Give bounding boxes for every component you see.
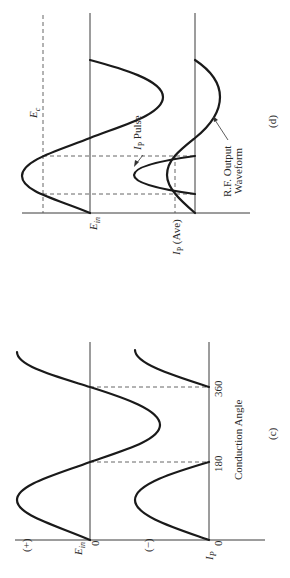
label-ec: Ec bbox=[27, 107, 42, 119]
svg-text:Conduction Angle: Conduction Angle bbox=[232, 400, 244, 480]
tick-360: 360 bbox=[212, 380, 224, 397]
panel-d-ip-pulse bbox=[134, 156, 195, 194]
svg-text:Ec: Ec bbox=[27, 107, 42, 119]
label-c-ip: IP bbox=[203, 551, 218, 561]
label-plus: (+) bbox=[20, 538, 33, 552]
svg-text:180: 180 bbox=[212, 455, 224, 472]
svg-text:(−): (−) bbox=[142, 538, 155, 552]
svg-text:Waveform: Waveform bbox=[232, 147, 244, 194]
label-d-ein: Ein bbox=[87, 217, 102, 231]
label-ip-ave: IP (Ave) bbox=[170, 219, 185, 256]
svg-text:IP (Ave): IP (Ave) bbox=[170, 219, 185, 256]
svg-text:(+): (+) bbox=[20, 538, 33, 552]
svg-text:Ein: Ein bbox=[72, 542, 87, 556]
panel-d: Ec Ein IP (Ave) IP Pulse R.F. Output Wav… bbox=[22, 13, 279, 256]
label-minus: (−) bbox=[142, 538, 155, 552]
caption-d: (d) bbox=[266, 115, 279, 128]
panel-c: (+) Ein 0 (−) IP 0 180 360 Conduction An… bbox=[15, 342, 279, 561]
panel-c-ein-waveform bbox=[17, 352, 160, 540]
svg-text:0: 0 bbox=[89, 540, 101, 546]
panel-c-ip-pulse-2 bbox=[135, 350, 209, 387]
label-zero-ein: 0 bbox=[89, 540, 101, 546]
panel-c-ip-pulse-1 bbox=[135, 462, 209, 540]
svg-text:IP: IP bbox=[203, 551, 218, 561]
svg-text:360: 360 bbox=[212, 380, 224, 397]
label-ip-pulse: IP Pulse bbox=[131, 115, 146, 151]
svg-text:(d): (d) bbox=[266, 115, 279, 128]
caption-c: (c) bbox=[266, 427, 279, 440]
panel-d-rf-arrow bbox=[215, 120, 228, 140]
label-rf-output: R.F. Output Waveform bbox=[221, 146, 244, 197]
label-zero-ip: 0 bbox=[212, 540, 224, 546]
tick-180: 180 bbox=[212, 455, 224, 472]
xlabel-conduction-angle: Conduction Angle bbox=[232, 400, 244, 480]
diagram-canvas: Ec Ein IP (Ave) IP Pulse R.F. Output Wav… bbox=[0, 0, 290, 578]
svg-text:0: 0 bbox=[212, 540, 224, 546]
svg-text:(c): (c) bbox=[266, 427, 279, 440]
svg-text:Ein: Ein bbox=[87, 217, 102, 231]
svg-text:IP Pulse: IP Pulse bbox=[131, 115, 146, 151]
label-c-ein: Ein bbox=[72, 542, 87, 556]
